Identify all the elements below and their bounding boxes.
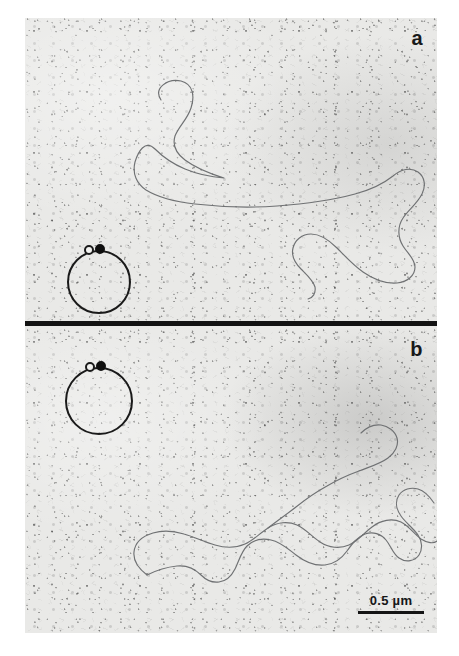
micrograph-plate: a b 0.5 µm (25, 18, 437, 633)
open-marker-icon (84, 245, 94, 255)
panel-divider-bar (25, 321, 437, 326)
panel-a: a (25, 18, 437, 321)
open-marker-icon (85, 362, 95, 372)
scale-bar-label: 0.5 µm (355, 594, 427, 608)
plasmid-circle-icon (67, 250, 131, 314)
filled-marker-icon (96, 361, 106, 371)
panel-label-a: a (411, 28, 423, 48)
scale-bar-line (358, 611, 424, 614)
plasmid-schematic-inset-b (65, 367, 133, 435)
scale-bar: 0.5 µm (355, 594, 427, 614)
plasmid-circle-icon (65, 367, 133, 435)
electron-micrograph-figure: a b 0.5 µm (0, 0, 459, 656)
filled-marker-icon (95, 244, 105, 254)
plasmid-schematic-inset-a (67, 250, 131, 314)
panel-label-b: b (410, 339, 423, 359)
